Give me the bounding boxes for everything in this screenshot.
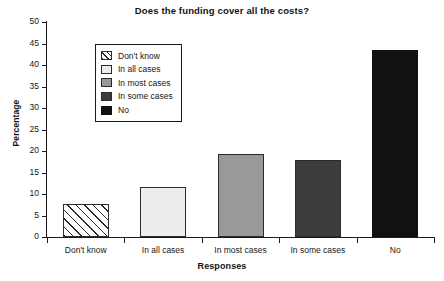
y-tick-mark (42, 216, 47, 217)
x-tick-mark (47, 238, 48, 243)
legend-label: No (118, 106, 129, 115)
y-tick-mark (42, 108, 47, 109)
legend-item: In most cases (101, 76, 173, 90)
y-tick-label: 40 (0, 60, 39, 69)
x-category-label: No (357, 244, 434, 256)
y-tick-label: 25 (0, 125, 39, 134)
y-tick-label: 0 (0, 232, 39, 241)
legend-swatch-icon (101, 65, 112, 74)
x-tick-mark (357, 238, 358, 243)
bar (218, 154, 264, 237)
y-tick-mark (42, 130, 47, 131)
y-tick-mark (42, 65, 47, 66)
legend-swatch-icon (101, 92, 112, 101)
legend-item: In all cases (101, 63, 173, 77)
x-axis-category-labels: Don't knowIn all casesIn most casesIn so… (47, 244, 434, 258)
bar (63, 204, 109, 237)
bar (372, 50, 418, 237)
legend-swatch-icon (101, 78, 112, 87)
y-tick-label: 35 (0, 82, 39, 91)
x-axis-line (46, 237, 435, 238)
legend-label: In some cases (118, 92, 173, 101)
x-category-label: In some cases (279, 244, 356, 256)
y-tick-label: 50 (0, 17, 39, 26)
x-tick-mark (279, 238, 280, 243)
legend-swatch-icon (101, 106, 112, 115)
chart-legend: Don't knowIn all casesIn most casesIn so… (95, 44, 182, 122)
y-tick-mark (42, 87, 47, 88)
legend-item: In some cases (101, 90, 173, 104)
y-tick-label: 15 (0, 168, 39, 177)
bar (295, 160, 341, 237)
legend-label: Don't know (118, 52, 160, 61)
y-axis-tick-labels: 05101520253035404550 (0, 0, 39, 281)
x-category-label: In most cases (202, 244, 279, 256)
legend-swatch-icon (101, 51, 112, 60)
y-tick-mark (42, 44, 47, 45)
legend-label: In most cases (118, 79, 170, 88)
bar-chart-figure: Does the funding cover all the costs? Pe… (0, 0, 444, 281)
y-tick-label: 30 (0, 103, 39, 112)
y-tick-label: 20 (0, 146, 39, 155)
y-tick-mark (42, 151, 47, 152)
y-tick-label: 5 (0, 211, 39, 220)
y-tick-mark (42, 22, 47, 23)
x-tick-mark (434, 238, 435, 243)
x-tick-mark (124, 238, 125, 243)
legend-item: No (101, 103, 173, 117)
legend-item: Don't know (101, 49, 173, 63)
x-category-label: In all cases (124, 244, 201, 256)
bar (140, 187, 186, 237)
x-category-label: Don't know (47, 244, 124, 256)
y-tick-mark (42, 194, 47, 195)
y-tick-mark (42, 173, 47, 174)
x-axis-title: Responses (0, 261, 444, 271)
y-tick-label: 45 (0, 39, 39, 48)
chart-title: Does the funding cover all the costs? (0, 5, 444, 16)
legend-label: In all cases (118, 65, 161, 74)
y-tick-label: 10 (0, 189, 39, 198)
x-tick-mark (202, 238, 203, 243)
